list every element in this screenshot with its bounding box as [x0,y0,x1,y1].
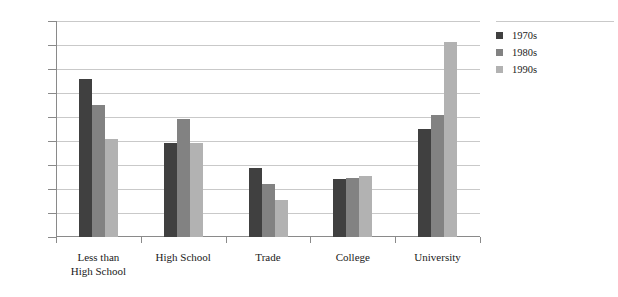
legend: 1970s1980s1990s [496,28,537,79]
x-axis-tick-mark [226,237,227,243]
bar [190,143,203,237]
bar [249,168,262,237]
bar [418,129,431,237]
y-axis-tick-mark [48,213,56,214]
legend-swatch-icon [496,66,503,73]
bar-group [333,21,372,237]
y-axis-tick-mark [48,141,56,142]
y-axis-tick-mark [48,69,56,70]
legend-label: 1980s [512,47,537,58]
bar [431,115,444,237]
bar-group [164,21,203,237]
legend-item[interactable]: 1980s [496,45,537,59]
y-axis-tick-mark [48,117,56,118]
bar-group [418,21,457,237]
y-axis-line [56,21,57,237]
bar-group [79,21,118,237]
x-axis-tick-mark [141,237,142,243]
legend-item[interactable]: 1970s [496,28,537,42]
y-axis-tick-mark [48,237,56,238]
legend-top-rule [496,21,614,22]
bar [275,200,288,237]
x-axis-tick-mark [480,237,481,243]
y-axis-tick-mark [48,93,56,94]
legend-label: 1970s [512,30,537,41]
x-axis-tick-mark [310,237,311,243]
x-axis-tick-mark [395,237,396,243]
bar [105,139,118,237]
y-axis-tick-mark [48,21,56,22]
bar-group [249,21,288,237]
bar [177,119,190,237]
bar-chart: 0%5%10%15%20%25%30%35%40%45% Less thanHi… [0,0,618,297]
y-axis-tick-mark [48,45,56,46]
plot-area [56,21,480,237]
x-axis-category-label-line: High School [38,264,158,278]
bar [444,42,457,237]
bar [164,143,177,237]
bar [359,176,372,237]
x-axis-tick-mark [56,237,57,243]
bar [92,105,105,237]
legend-label: 1990s [512,64,537,75]
x-axis-category-label: University [378,250,498,264]
y-axis-tick-mark [48,165,56,166]
legend-swatch-icon [496,32,503,39]
bar [262,184,275,237]
legend-item[interactable]: 1990s [496,62,537,76]
bar [333,179,346,237]
legend-swatch-icon [496,49,503,56]
bar [346,178,359,237]
y-axis-tick-mark [48,189,56,190]
x-axis-category-label-line: University [378,250,498,264]
bar [79,79,92,237]
